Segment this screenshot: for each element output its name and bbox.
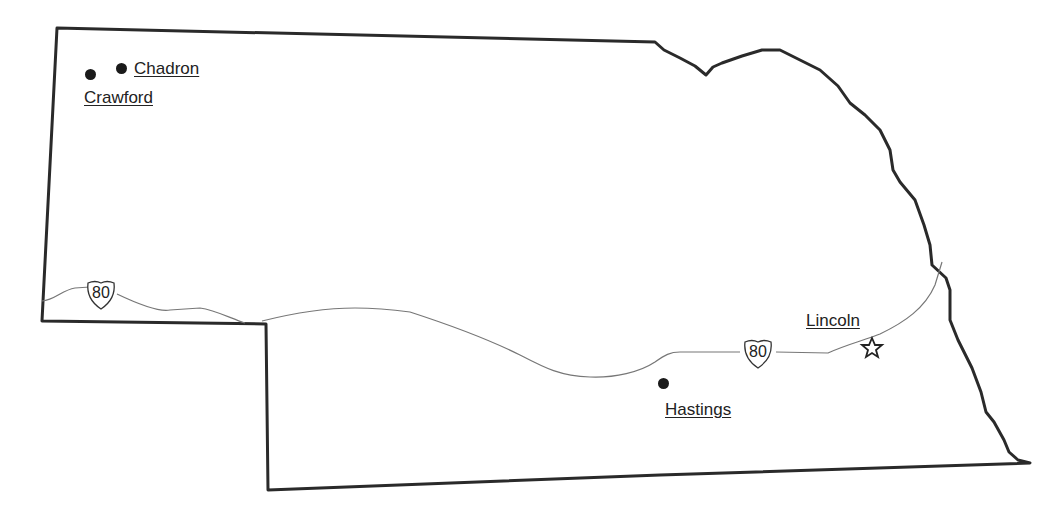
city-label-hastings[interactable]: Hastings: [665, 400, 731, 420]
interstate-shield-80-east[interactable]: 80: [742, 338, 774, 370]
city-label-lincoln[interactable]: Lincoln: [806, 311, 860, 331]
shield-route-number: 80: [85, 284, 117, 302]
city-label-crawford[interactable]: Crawford: [84, 88, 153, 108]
city-label-chadron[interactable]: Chadron: [134, 59, 199, 79]
capital-star-icon[interactable]: [862, 338, 882, 357]
hastings-marker-icon[interactable]: [658, 378, 669, 389]
state-border: [42, 28, 1030, 490]
crawford-marker-icon[interactable]: [85, 69, 96, 80]
shield-route-number: 80: [742, 343, 774, 361]
chadron-marker-icon[interactable]: [116, 63, 127, 74]
interstate-shield-80-west[interactable]: 80: [85, 279, 117, 311]
